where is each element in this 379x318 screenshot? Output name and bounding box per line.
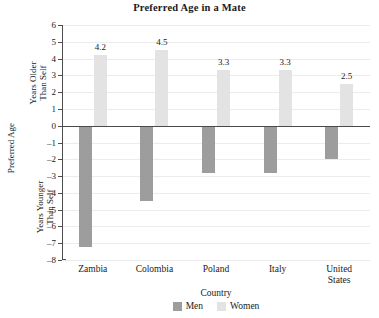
x-category-label-line: Poland <box>181 264 251 275</box>
y-tick-mark <box>58 126 62 127</box>
bar-men-poland <box>202 126 215 173</box>
bar-value-label: 2.5 <box>332 72 362 81</box>
bar-value-label: 3.3 <box>209 58 239 67</box>
bar-women-poland <box>217 70 230 125</box>
x-category-label-line: Zambia <box>58 264 128 275</box>
y-tick-label: –6 <box>16 222 56 231</box>
y-tick-label: –5 <box>16 206 56 215</box>
bar-women-colombia <box>155 50 168 126</box>
bar-women-italy <box>279 70 292 125</box>
gridline <box>63 210 370 211</box>
legend-label-men: Men <box>186 301 203 311</box>
gridline <box>63 243 370 244</box>
bar-men-zambia <box>79 126 92 247</box>
bar-value-label: 3.3 <box>270 58 300 67</box>
bar-women-united-states <box>340 84 353 126</box>
y-tick-label: –4 <box>16 189 56 198</box>
y-tick-mark <box>58 92 62 93</box>
zero-baseline <box>62 126 370 127</box>
x-category-label-line: United <box>304 264 374 275</box>
y-tick-label: –3 <box>16 172 56 181</box>
x-category-label: Colombia <box>119 264 189 275</box>
x-category-label: Italy <box>243 264 313 275</box>
plot-area: 6543210–1–2–3–4–5–6–7–8 4.24.53.33.32.5 <box>62 25 370 260</box>
x-category-label-line: Italy <box>243 264 313 275</box>
y-tick-mark <box>58 25 62 26</box>
chart-legend: Men Women <box>62 301 370 311</box>
y-tick-label: –7 <box>16 239 56 248</box>
y-tick-label: 4 <box>16 55 56 64</box>
bar-women-zambia <box>94 55 107 126</box>
gridline <box>63 143 370 144</box>
y-tick-mark <box>58 109 62 110</box>
legend-item-men: Men <box>173 301 203 311</box>
x-category-label: Zambia <box>58 264 128 275</box>
bar-men-united-states <box>325 126 338 160</box>
y-axis-outer-label-text: Preferred Age <box>6 103 16 193</box>
y-tick-label: –8 <box>16 256 56 265</box>
y-tick-mark <box>58 143 62 144</box>
legend-swatch-women-icon <box>217 302 226 311</box>
y-tick-mark <box>58 226 62 227</box>
gridline <box>63 193 370 194</box>
y-tick-label: 1 <box>16 105 56 114</box>
y-tick-mark <box>58 59 62 60</box>
legend-item-women: Women <box>217 301 259 311</box>
y-tick-label: –2 <box>16 155 56 164</box>
x-axis-label: Country <box>62 288 370 298</box>
x-category-label-line: Colombia <box>119 264 189 275</box>
gridline <box>63 260 370 261</box>
gridline <box>63 176 370 177</box>
chart-page: Preferred Age in a Mate Preferred Age Ye… <box>0 0 379 318</box>
y-tick-mark <box>58 42 62 43</box>
y-tick-mark <box>58 210 62 211</box>
y-tick-mark <box>58 176 62 177</box>
bar-value-label: 4.5 <box>147 38 177 47</box>
legend-swatch-men-icon <box>173 302 182 311</box>
x-category-label-line: States <box>304 275 374 286</box>
bar-men-colombia <box>140 126 153 202</box>
legend-label-women: Women <box>230 301 259 311</box>
y-tick-mark <box>58 193 62 194</box>
gridline <box>63 25 370 26</box>
x-category-label: UnitedStates <box>304 264 374 286</box>
y-tick-label: 6 <box>16 21 56 30</box>
y-tick-label: 3 <box>16 71 56 80</box>
y-tick-mark <box>58 243 62 244</box>
y-tick-label: 0 <box>16 122 56 131</box>
bar-value-label: 4.2 <box>85 43 115 52</box>
y-tick-mark <box>58 75 62 76</box>
gridline <box>63 226 370 227</box>
x-category-label: Poland <box>181 264 251 275</box>
y-tick-mark <box>58 260 62 261</box>
y-tick-label: –1 <box>16 139 56 148</box>
bar-men-italy <box>264 126 277 173</box>
chart-title: Preferred Age in a Mate <box>0 2 379 13</box>
y-tick-mark <box>58 159 62 160</box>
y-tick-label: 2 <box>16 88 56 97</box>
y-tick-label: 5 <box>16 38 56 47</box>
gridline <box>63 159 370 160</box>
